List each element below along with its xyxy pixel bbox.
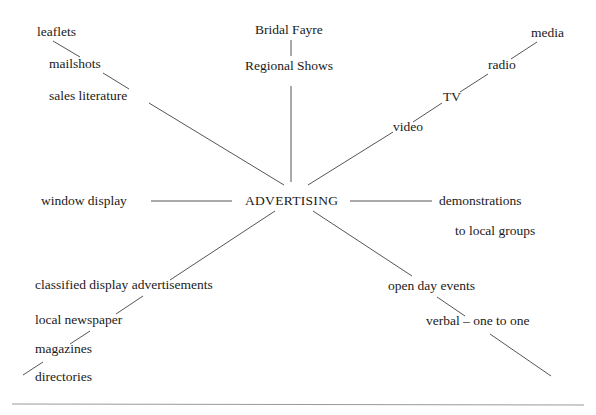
node-tv: TV xyxy=(443,89,461,105)
node-bridal-fayre: Bridal Fayre xyxy=(255,22,323,38)
node-to-local-groups: to local groups xyxy=(455,223,535,239)
center-node: ADVERTISING xyxy=(245,193,338,209)
node-leaflets: leaflets xyxy=(37,24,76,40)
node-directories: directories xyxy=(35,369,92,385)
node-regional-shows: Regional Shows xyxy=(245,58,333,74)
line-video-center xyxy=(308,132,393,185)
line-verbal-end xyxy=(490,334,551,376)
line-center-classified xyxy=(170,211,275,280)
node-verbal-one-to-one: verbal – one to one xyxy=(426,313,529,329)
spider-diagram: ADVERTISING leaflets mailshots sales lit… xyxy=(0,0,596,415)
line-radio-tv xyxy=(460,74,488,92)
node-video: video xyxy=(393,119,423,135)
line-mailshots-sales xyxy=(103,73,129,89)
bottom-rule xyxy=(12,404,584,405)
node-local-newspaper: local newspaper xyxy=(35,312,122,328)
node-demonstrations: demonstrations xyxy=(439,193,522,209)
node-open-day-events: open day events xyxy=(388,278,475,294)
node-radio: radio xyxy=(488,57,516,73)
node-window-display: window display xyxy=(41,193,127,209)
node-media: media xyxy=(531,25,564,41)
node-magazines: magazines xyxy=(35,341,92,357)
line-center-openday xyxy=(313,211,412,276)
line-sales-center xyxy=(149,103,284,185)
node-sales-literature: sales literature xyxy=(49,88,127,104)
node-classified-display: classified display advertisements xyxy=(35,277,213,293)
line-leaflets-mailshots xyxy=(53,41,80,57)
node-mailshots: mailshots xyxy=(49,56,101,72)
